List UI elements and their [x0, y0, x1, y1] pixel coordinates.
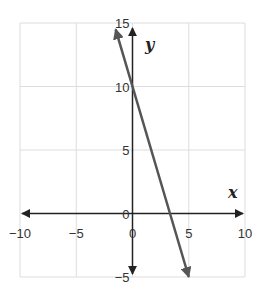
x-tick-label: 5: [185, 226, 192, 241]
x-tick-label: 0: [129, 226, 136, 241]
y-tick-label: 10: [115, 80, 129, 95]
y-tick-label: 15: [115, 16, 129, 31]
coordinate-plane: −10−50510−5051015xy: [0, 0, 259, 298]
x-axis-label: x: [227, 183, 238, 202]
x-tick-label: 10: [238, 226, 252, 241]
y-tick-label: 0: [122, 207, 129, 222]
x-tick-label: −5: [69, 226, 84, 241]
y-axis-label: y: [144, 35, 156, 54]
y-tick-label: 5: [122, 143, 129, 158]
x-tick-label: −10: [9, 226, 31, 241]
y-tick-label: −5: [115, 270, 130, 285]
